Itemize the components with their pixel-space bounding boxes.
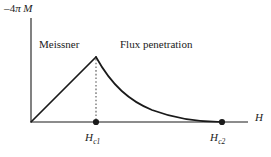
- x-tick-hc1-symbol: H: [85, 131, 93, 143]
- y-axis-label-pi: π: [15, 2, 21, 14]
- x-tick-hc2-symbol: H: [210, 131, 218, 143]
- x-axis-label: H: [255, 112, 263, 123]
- y-axis-label: –4πM: [4, 3, 33, 14]
- y-axis-label-variable: M: [23, 2, 32, 14]
- flux-penetration-curve: [96, 57, 222, 122]
- meissner-curve: [31, 57, 96, 122]
- hc1-point-marker: [93, 119, 99, 125]
- meissner-region-label: Meissner: [39, 39, 79, 50]
- x-tick-label-hc2: Hc2: [210, 132, 225, 143]
- x-tick-hc2-subscript: c2: [218, 137, 225, 146]
- x-tick-label-hc1: Hc1: [85, 132, 100, 143]
- x-tick-hc1-subscript: c1: [93, 137, 100, 146]
- plot-canvas: [0, 0, 271, 157]
- flux-penetration-region-label: Flux penetration: [120, 39, 192, 50]
- hc2-point-marker: [219, 119, 225, 125]
- magnetization-figure: –4πM Meissner Flux penetration Hc1 Hc2 H: [0, 0, 271, 157]
